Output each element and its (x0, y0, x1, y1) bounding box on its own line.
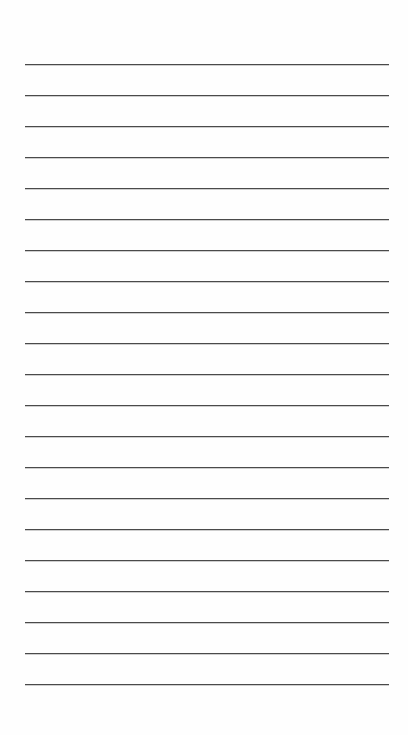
ruled-line (25, 436, 389, 437)
ruled-line (25, 343, 389, 344)
ruled-line (25, 374, 389, 375)
ruled-line (25, 560, 389, 561)
ruled-line (25, 126, 389, 127)
ruled-line (25, 653, 389, 654)
ruled-line (25, 64, 389, 65)
lined-paper-page (0, 0, 408, 735)
ruled-line (25, 467, 389, 468)
ruled-line (25, 622, 389, 623)
ruled-line (25, 95, 389, 96)
ruled-line (25, 157, 389, 158)
ruled-line (25, 188, 389, 189)
ruled-line (25, 250, 389, 251)
ruled-line (25, 529, 389, 530)
ruled-line (25, 591, 389, 592)
ruled-line (25, 281, 389, 282)
ruled-line (25, 684, 389, 685)
ruled-line (25, 405, 389, 406)
ruled-line (25, 312, 389, 313)
ruled-line (25, 219, 389, 220)
ruled-line (25, 498, 389, 499)
